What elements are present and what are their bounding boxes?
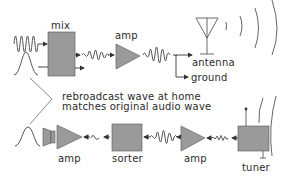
amp-bottom-right-triangle (181, 126, 205, 151)
audio-signal-wave-icon (91, 136, 99, 140)
carrier-wave-icon (14, 36, 38, 52)
sorter-label: sorter (112, 153, 143, 164)
ground-label: ground (191, 72, 228, 83)
callout-lines (30, 78, 52, 124)
radio-broadcast-diagram: mix amp antenna ground rebroadcast wave … (0, 0, 285, 181)
amp-bottom-left-label: amp (58, 153, 81, 164)
amplified-wave-icon (143, 47, 170, 63)
sorter-block (112, 124, 142, 151)
mix-block (48, 32, 75, 76)
to-ground-arrow (176, 55, 188, 77)
amp-bottom-left-triangle (57, 125, 82, 149)
radio-waves-icon (226, 0, 277, 55)
audio-wave-icon (14, 52, 38, 75)
speaker-icon (43, 128, 55, 146)
received-amplified-wave-icon (150, 131, 177, 144)
antenna-icon (196, 18, 218, 54)
note-line-2: matches original audio wave (62, 101, 211, 112)
tuner-label: tuner (242, 162, 270, 173)
amp-bottom-right-label: amp (184, 153, 207, 164)
amp-top-label: amp (115, 30, 138, 41)
output-audio-wave-icon (15, 127, 40, 146)
tuner-block (238, 126, 269, 151)
tuned-wave-icon (212, 136, 228, 141)
antenna-label: antenna (192, 57, 235, 68)
amp-top-triangle (116, 44, 140, 69)
modulated-wave-icon (82, 50, 109, 60)
mix-label: mix (51, 20, 70, 31)
